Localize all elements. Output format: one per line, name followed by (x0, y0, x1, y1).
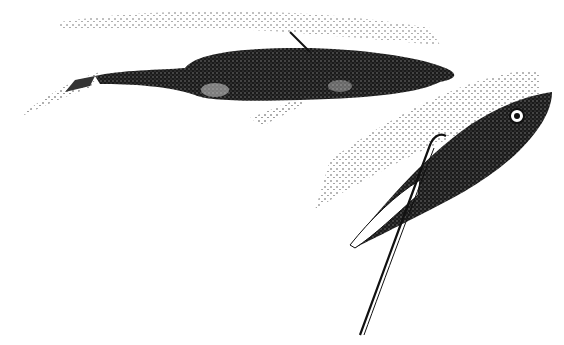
illustration (0, 0, 564, 345)
long-fish (65, 32, 454, 101)
stipple-trail-top (60, 11, 440, 45)
fish-illustration (0, 0, 564, 345)
stipple-fin (250, 98, 305, 126)
